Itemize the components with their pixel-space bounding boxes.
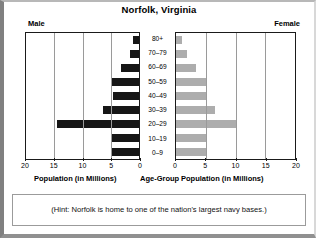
axis-tick-label: 5 [109,162,113,169]
axis-tick-mark [25,158,26,161]
female-plot-panel [175,32,296,160]
age-group-label-70–79: 70–79 [140,46,175,60]
axis-tick-mark [205,158,206,161]
axis-tick-label: 10 [232,162,240,169]
female-axis-caption: Population (in Millions) [181,174,264,183]
axis-tick-mark [175,158,176,161]
bar-male-40–49 [113,92,139,99]
bar-female-0–9 [176,148,207,155]
chart-card: Norfolk, Virginia Male Female 80+70–7960… [4,2,314,234]
age-group-labels: 80+70–7960–6950–5940–4930–3920–2910–190–… [140,32,175,160]
gridline [54,33,55,159]
bar-female-50–59 [176,78,207,85]
bar-female-40–49 [176,92,206,99]
age-axis-caption: Age-Group [140,174,177,183]
axis-tick-label: 0 [173,162,177,169]
page-title: Norfolk, Virginia [4,4,314,15]
hint-box: (Hint: Norfolk is home to one of the nat… [12,194,306,226]
female-header-label: Female [274,19,300,28]
age-group-label-10–19: 10–19 [140,132,175,146]
male-header-label: Male [28,19,45,28]
gridline [206,33,207,159]
bar-male-80+ [133,36,139,43]
age-group-label-80+: 80+ [140,32,175,46]
male-axis-caption: Population (in Millions) [34,174,117,183]
axis-tick-label: 15 [262,162,270,169]
age-group-label-40–49: 40–49 [140,89,175,103]
axis-tick-mark [140,158,141,161]
bar-male-0–9 [111,148,139,155]
bar-female-30–39 [176,106,215,113]
gridline [111,33,112,159]
axis-tick-label: 15 [50,162,58,169]
age-group-label-0–9: 0–9 [140,146,175,160]
axis-tick-label: 10 [79,162,87,169]
screenshot-frame: Norfolk, Virginia Male Female 80+70–7960… [0,0,316,238]
axis-tick-label: 0 [138,162,142,169]
age-group-label-20–29: 20–29 [140,117,175,131]
axis-tick-mark [296,158,297,161]
axis-tick-mark [83,158,84,161]
axis-tick-mark [266,158,267,161]
bar-male-70–79 [130,50,139,57]
gridline [236,33,237,159]
bar-male-30–39 [103,106,139,113]
bar-female-80+ [176,36,182,43]
age-group-label-60–69: 60–69 [140,60,175,74]
bar-male-20–29 [57,120,139,127]
bar-female-60–69 [176,64,196,71]
bar-male-60–69 [121,64,139,71]
axis-tick-label: 20 [21,162,29,169]
bar-female-10–19 [176,134,207,141]
axis-tick-label: 20 [292,162,300,169]
bar-male-50–59 [111,78,139,85]
female-axis-ticks: 05101520 [175,162,296,173]
age-group-label-50–59: 50–59 [140,75,175,89]
bar-male-10–19 [111,134,139,141]
male-plot-panel [25,32,140,160]
hint-text: (Hint: Norfolk is home to one of the nat… [13,205,305,214]
bar-female-70–79 [176,50,187,57]
male-axis-ticks: 20151050 [25,162,140,173]
gridline [83,33,84,159]
gridline [265,33,266,159]
age-group-label-30–39: 30–39 [140,103,175,117]
axis-tick-mark [236,158,237,161]
axis-tick-label: 5 [203,162,207,169]
axis-tick-mark [54,158,55,161]
axis-tick-mark [111,158,112,161]
